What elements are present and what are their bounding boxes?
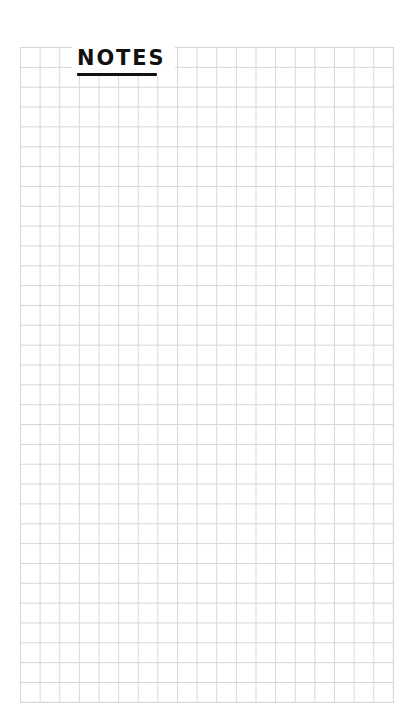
page-title: NOTES xyxy=(77,46,165,70)
notes-header: NOTES xyxy=(72,44,175,76)
title-underline xyxy=(77,73,157,76)
notes-grid[interactable] xyxy=(20,47,394,703)
